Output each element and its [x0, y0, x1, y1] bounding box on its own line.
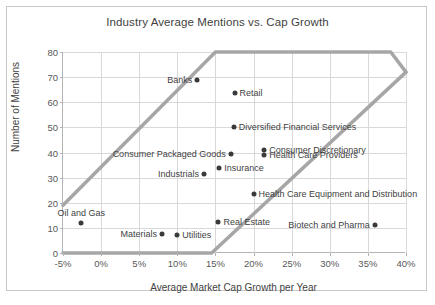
y-tick-label: 70	[47, 72, 58, 83]
data-point[interactable]	[232, 91, 237, 96]
data-point[interactable]	[160, 232, 165, 237]
data-point[interactable]	[251, 191, 256, 196]
x-tick-label: 35%	[358, 258, 377, 269]
y-tick-label: 30	[47, 172, 58, 183]
chart-title: Industry Average Mentions vs. Cap Growth	[0, 16, 435, 28]
data-point-label: Utilities	[182, 230, 211, 240]
y-tick-label: 20	[47, 197, 58, 208]
x-tick-mark	[139, 253, 140, 256]
data-point[interactable]	[202, 171, 207, 176]
x-tick-label: 30%	[320, 258, 339, 269]
y-tick-mark	[60, 52, 63, 53]
x-tick-mark	[63, 253, 64, 256]
chart-screenshot: Industry Average Mentions vs. Cap Growth…	[0, 0, 435, 305]
data-point-label: Biotech and Pharma	[288, 220, 370, 230]
y-tick-mark	[60, 178, 63, 179]
x-tick-mark	[368, 253, 369, 256]
data-point-label: Materials	[121, 229, 158, 239]
x-tick-mark	[292, 253, 293, 256]
x-axis-title: Average Market Cap Growth per Year	[62, 282, 405, 293]
x-tick-label: 10%	[168, 258, 187, 269]
gridline-horizontal	[63, 102, 406, 103]
x-tick-label: -5%	[55, 258, 72, 269]
data-point[interactable]	[228, 151, 233, 156]
y-tick-mark	[60, 228, 63, 229]
data-point[interactable]	[195, 77, 200, 82]
data-point-label: Health Care Providers	[269, 150, 358, 160]
x-tick-label: 40%	[396, 258, 415, 269]
x-tick-label: 15%	[206, 258, 225, 269]
x-tick-mark	[406, 253, 407, 256]
gridline-horizontal	[63, 77, 406, 78]
plot-area: BanksRetailDiversified Financial Service…	[62, 52, 405, 253]
x-tick-mark	[254, 253, 255, 256]
data-point-label: Retail	[240, 88, 263, 98]
data-point-label: Health Care Equipment and Distribution	[259, 189, 418, 199]
data-point[interactable]	[216, 219, 221, 224]
y-tick-label: 0	[53, 248, 58, 259]
data-point-label: Industrials	[158, 169, 199, 179]
y-tick-label: 80	[47, 47, 58, 58]
x-tick-label: 5%	[132, 258, 146, 269]
gridline-horizontal	[63, 52, 406, 53]
x-tick-mark	[215, 253, 216, 256]
x-tick-label: 25%	[282, 258, 301, 269]
data-point[interactable]	[217, 165, 222, 170]
y-tick-label: 10	[47, 222, 58, 233]
x-tick-mark	[101, 253, 102, 256]
y-tick-label: 50	[47, 122, 58, 133]
data-point[interactable]	[262, 153, 267, 158]
data-point-label: Oil and Gas	[58, 208, 106, 218]
x-tick-label: 0%	[94, 258, 108, 269]
y-tick-mark	[60, 77, 63, 78]
data-point-label: Consumer Packaged Goods	[113, 149, 226, 159]
data-point-label: Banks	[167, 75, 192, 85]
data-point[interactable]	[79, 220, 84, 225]
y-tick-mark	[60, 127, 63, 128]
y-axis-title: Number of Mentions	[10, 62, 21, 152]
x-tick-label: 20%	[244, 258, 263, 269]
gridline-vertical	[101, 52, 102, 253]
gridline-horizontal	[63, 203, 406, 204]
x-tick-mark	[177, 253, 178, 256]
data-point[interactable]	[231, 125, 236, 130]
data-point-label: Insurance	[224, 163, 264, 173]
gridline-vertical	[406, 52, 407, 253]
y-tick-mark	[60, 153, 63, 154]
y-tick-label: 60	[47, 97, 58, 108]
gridline-horizontal	[63, 178, 406, 179]
data-point[interactable]	[175, 233, 180, 238]
x-tick-mark	[330, 253, 331, 256]
y-tick-label: 40	[47, 147, 58, 158]
y-tick-mark	[60, 102, 63, 103]
data-point-label: Diversified Financial Services	[239, 122, 357, 132]
y-tick-mark	[60, 203, 63, 204]
data-point[interactable]	[372, 223, 377, 228]
data-point-label: Real Estate	[223, 217, 270, 227]
